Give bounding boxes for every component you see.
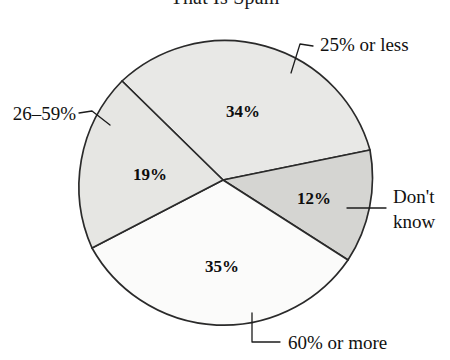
slice-value-left: 19% [133,165,167,184]
slice-value-lower: 35% [205,257,239,276]
pie-chart-figure: That Is Spam 34% 12% 35% 19% 25% or less… [0,0,450,360]
slice-value-right: 12% [297,189,331,208]
callout-label-25-percent-or-less: 25% or less [320,34,409,55]
callout-label-dont-know-line2: know [393,211,436,232]
callout-label-dont-know-line1: Don't [393,186,435,207]
pie-chart-svg: 34% 12% 35% 19% 25% or less 26–59% Don't… [0,0,450,360]
slice-value-upper: 34% [226,102,260,121]
callout-label-60-percent-or-more: 60% or more [288,332,387,353]
callout-label-26-59-percent: 26–59% [13,103,77,124]
